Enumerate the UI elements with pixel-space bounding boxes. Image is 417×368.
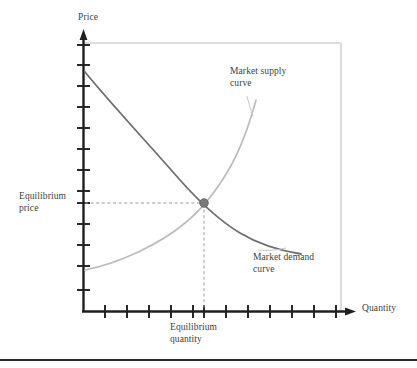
y-axis-label: Price: [78, 12, 98, 24]
supply-demand-chart: [0, 0, 417, 368]
equilibrium-point-marker: [200, 199, 209, 208]
equilibrium-price-label: Equilibrium price: [19, 191, 85, 214]
market-demand-curve-label: Market demand curve: [253, 252, 339, 275]
market-supply-curve-label: Market supply curve: [230, 66, 310, 89]
market-demand-curve: [85, 72, 301, 254]
x-axis-label: Quantity: [362, 303, 396, 315]
page-bottom-rule: [0, 359, 417, 361]
supply-label-leader-line: [247, 96, 253, 116]
market-supply-curve: [85, 100, 256, 270]
equilibrium-quantity-label: Equilibrium quantity: [170, 322, 256, 345]
